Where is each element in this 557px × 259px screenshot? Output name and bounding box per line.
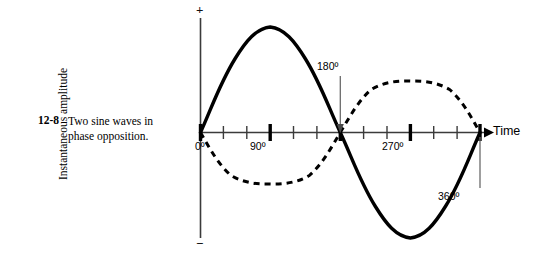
y-axis-negative-sign: −: [196, 237, 203, 250]
x-tick-label-360deg: 360º: [438, 190, 459, 202]
plot-area: + − Instantaneous amplitude Time 0º 90º …: [0, 0, 557, 259]
sine-wave-plot: [0, 0, 557, 259]
x-tick-label-0deg: 0º: [195, 140, 205, 152]
x-axis-label: Time: [493, 124, 520, 138]
y-axis-label: Instantaneous amplitude: [57, 26, 69, 222]
x-tick-label-180deg: 180º: [317, 60, 338, 72]
annotation-leader-180: [337, 76, 344, 133]
x-tick-label-270deg: 270º: [382, 140, 403, 152]
y-axis-positive-sign: +: [196, 3, 203, 16]
figure-container: 12-8 Two sine waves in phase opposition.: [0, 0, 557, 259]
x-tick-label-90deg: 90º: [250, 140, 266, 152]
